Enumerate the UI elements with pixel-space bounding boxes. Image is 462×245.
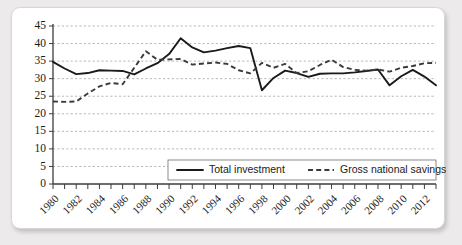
x-tick-label: 2012	[408, 192, 432, 216]
x-tick-label-group: 1990	[153, 192, 177, 216]
y-tick-label: 5	[40, 160, 46, 172]
legend-label-1: Total investment	[209, 163, 285, 175]
x-tick-label-group: 1994	[199, 192, 223, 216]
x-tick-label-group: 2010	[385, 192, 409, 216]
y-tick-label: 35	[35, 54, 47, 66]
series-line-2	[53, 51, 436, 102]
x-tick-label-group: 1984	[83, 192, 107, 216]
y-tick-label: 20	[35, 107, 47, 119]
x-tick-label: 1996	[222, 192, 246, 216]
x-tick-label-group: 2004	[315, 192, 339, 216]
x-tick-label-group: 1982	[60, 192, 84, 216]
legend-label-2: Gross national savings	[340, 163, 446, 175]
x-tick-label: 2008	[362, 192, 386, 216]
x-tick-label: 1998	[246, 192, 270, 216]
x-tick-label: 1984	[83, 192, 107, 216]
x-tick-label: 1990	[153, 192, 177, 216]
x-tick-label-group: 2002	[292, 192, 316, 216]
line-chart: 0510152025303540451980198219841986198819…	[12, 8, 446, 230]
y-tick-label: 0	[40, 177, 46, 189]
x-tick-label: 2010	[385, 192, 409, 216]
x-tick-label-group: 2006	[338, 192, 362, 216]
y-tick-label: 30	[35, 72, 47, 84]
x-tick-label-group: 2000	[269, 192, 293, 216]
y-tick-label: 40	[35, 37, 47, 49]
x-tick-label-group: 1988	[130, 192, 154, 216]
x-tick-label-group: 2008	[362, 192, 386, 216]
x-tick-label: 1992	[176, 192, 200, 216]
y-tick-label: 10	[35, 142, 47, 154]
chart-card: 0510152025303540451980198219841986198819…	[11, 7, 445, 229]
x-tick-label-group: 1998	[246, 192, 270, 216]
series-line-1	[53, 38, 436, 90]
x-tick-label-group: 2012	[408, 192, 432, 216]
chart-svg: 0510152025303540451980198219841986198819…	[12, 8, 446, 230]
x-tick-label: 2004	[315, 192, 339, 216]
x-tick-label-group: 1986	[106, 192, 130, 216]
x-tick-label: 1980	[37, 192, 61, 216]
x-tick-label: 1986	[106, 192, 130, 216]
x-tick-label: 2006	[338, 192, 362, 216]
x-tick-label: 1994	[199, 192, 223, 216]
y-tick-label: 45	[35, 19, 47, 31]
y-tick-label: 25	[35, 89, 47, 101]
y-tick-label: 15	[35, 124, 47, 136]
x-tick-label: 2000	[269, 192, 293, 216]
x-tick-label-group: 1980	[37, 192, 61, 216]
x-tick-label-group: 1992	[176, 192, 200, 216]
x-tick-label: 2002	[292, 192, 316, 216]
x-tick-label: 1982	[60, 192, 84, 216]
x-tick-label-group: 1996	[222, 192, 246, 216]
x-tick-label: 1988	[130, 192, 154, 216]
